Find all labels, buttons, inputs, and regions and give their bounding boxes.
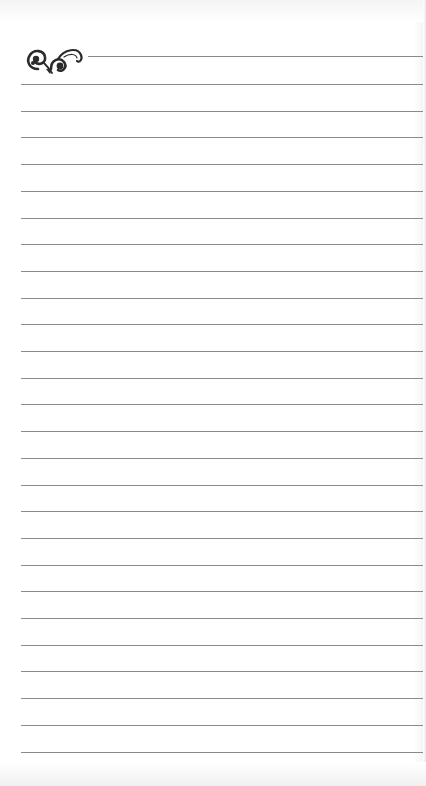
bottom-shading (0, 762, 426, 786)
rule-line (21, 351, 424, 352)
rule-line (21, 725, 424, 726)
rule-line (21, 111, 424, 112)
rule-line (21, 485, 424, 486)
rule-line (21, 538, 424, 539)
rule-line (21, 591, 424, 592)
rule-line (21, 378, 424, 379)
rule-line (21, 164, 424, 165)
rule-line (21, 671, 424, 672)
rule-line (21, 404, 424, 405)
rule-line (21, 218, 424, 219)
rule-line (21, 511, 424, 512)
rule-line (21, 618, 424, 619)
rule-line (21, 191, 424, 192)
rule-line (21, 565, 424, 566)
rule-line (21, 324, 424, 325)
rule-line (21, 752, 424, 753)
rule-line (21, 244, 424, 245)
rule-line (21, 458, 424, 459)
header-rule-line (88, 56, 424, 57)
rule-line (21, 271, 424, 272)
rule-line (21, 84, 424, 85)
top-shading (0, 0, 426, 22)
rule-line (21, 298, 424, 299)
rule-line (21, 137, 424, 138)
rule-line (21, 431, 424, 432)
rule-line (21, 698, 424, 699)
flourish-scroll-icon (24, 45, 84, 77)
rule-line (21, 645, 424, 646)
notepaper-page (0, 0, 426, 786)
